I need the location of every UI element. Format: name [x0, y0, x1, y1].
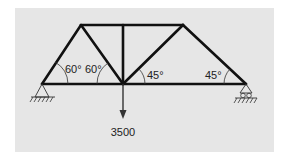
angle-label-2: 60°	[85, 63, 102, 75]
angle-label-1: 60°	[65, 63, 82, 75]
load-label: 3500	[111, 126, 135, 138]
truss-diagram: 60° 60° 45° 45° 3500	[0, 0, 287, 160]
angle-label-3: 45°	[147, 69, 164, 81]
angle-label-4: 45°	[205, 69, 222, 81]
